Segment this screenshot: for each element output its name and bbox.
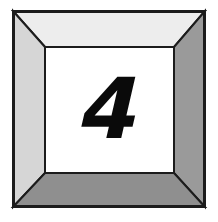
inner-panel-fill [45,47,174,173]
top-bevel-face [13,11,205,47]
bottom-bevel-face [13,173,205,207]
framed-numeral-scene: 4 [0,0,218,222]
beveled-frame [0,0,218,222]
